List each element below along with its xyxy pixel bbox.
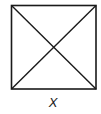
side-label: X (48, 95, 59, 110)
diagram-canvas: X (0, 0, 101, 114)
